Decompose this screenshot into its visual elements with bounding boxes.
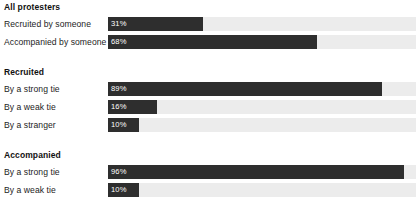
bar-value-label: 68% [111,35,127,49]
bar-value-label: 96% [111,165,127,179]
bar-row-label: By a weak tie [4,183,56,197]
bar-track: 10% [108,183,416,197]
bar-row-label: By a strong tie [4,82,60,96]
bar-value-label: 16% [111,100,127,114]
bar-row-label: Accompanied by someone [4,35,106,49]
group-rows: By a strong tie 96% By a weak tie 10% [0,165,414,197]
bar-track: 10% [108,118,416,132]
bar-row: By a strong tie 89% [0,82,414,96]
bar-row-label: By a stranger [4,118,56,132]
bar-track: 16% [108,100,416,114]
bar-value-label: 10% [111,183,127,197]
chart-group-all-protesters: All protesters Recruited by someone 31% … [0,0,414,49]
group-rows: By a strong tie 89% By a weak tie 16% By… [0,82,414,132]
bar-track: 89% [108,82,416,96]
group-rows: Recruited by someone 31% Accompanied by … [0,17,414,49]
group-title: All protesters [0,2,414,13]
chart-group-accompanied: Accompanied By a strong tie 96% By a wea… [0,136,414,197]
bar-row: Accompanied by someone 68% [0,35,414,49]
chart-group-recruited: Recruited By a strong tie 89% By a weak … [0,53,414,132]
group-title: Accompanied [0,150,414,161]
bar-row: Recruited by someone 31% [0,17,414,31]
bar-row: By a weak tie 10% [0,183,414,197]
bar-track: 96% [108,165,416,179]
bar-value-label: 31% [111,17,127,31]
bar-row: By a weak tie 16% [0,100,414,114]
bar-value-label: 89% [111,82,127,96]
bar-track: 68% [108,35,416,49]
bar-value-label: 10% [111,118,127,132]
group-title: Recruited [0,67,414,78]
bar-row: By a strong tie 96% [0,165,414,179]
bar-row-label: By a weak tie [4,100,56,114]
bar-row-label: Recruited by someone [4,17,91,31]
bar-fill [108,165,404,179]
bar-fill [108,35,317,49]
bar-track: 31% [108,17,416,31]
bar-row-label: By a strong tie [4,165,60,179]
bar-fill [108,82,382,96]
bar-row: By a stranger 10% [0,118,414,132]
